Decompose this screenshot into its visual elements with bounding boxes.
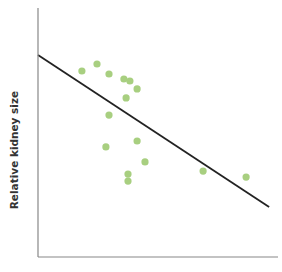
data-point	[134, 85, 141, 92]
data-points	[78, 60, 249, 184]
data-point	[102, 143, 109, 150]
data-point	[124, 178, 131, 185]
data-point	[200, 168, 207, 175]
data-point	[105, 70, 112, 77]
data-point	[141, 158, 148, 165]
data-point	[134, 137, 141, 144]
data-point	[123, 94, 130, 101]
scatter-chart	[0, 0, 282, 272]
data-point	[105, 112, 112, 119]
data-point	[124, 171, 131, 178]
regression-line	[38, 55, 269, 207]
data-point	[243, 174, 250, 181]
data-point	[93, 60, 100, 67]
data-point	[126, 77, 133, 84]
data-point	[78, 67, 85, 74]
